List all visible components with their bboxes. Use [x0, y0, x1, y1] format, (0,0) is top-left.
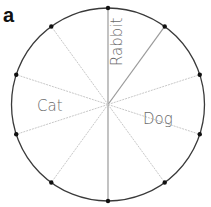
boundary-dot — [163, 24, 167, 28]
category-wheel-diagram: Rabbit Cat Dog — [0, 0, 211, 207]
boundary-dot — [14, 72, 18, 76]
spoke-line — [51, 105, 108, 183]
spoke-line — [108, 75, 200, 105]
boundary-dot — [49, 24, 53, 28]
boundary-dot — [198, 132, 202, 136]
boundary-dot — [106, 6, 110, 10]
label-rabbit: Rabbit — [108, 18, 126, 66]
boundary-dot — [49, 180, 53, 184]
label-dog: Dog — [143, 110, 173, 128]
boundary-dot — [14, 132, 18, 136]
label-cat: Cat — [37, 97, 63, 115]
boundary-dot — [106, 199, 110, 203]
boundary-dot — [198, 72, 202, 76]
spoke-line — [51, 26, 108, 104]
boundary-dot — [163, 180, 167, 184]
